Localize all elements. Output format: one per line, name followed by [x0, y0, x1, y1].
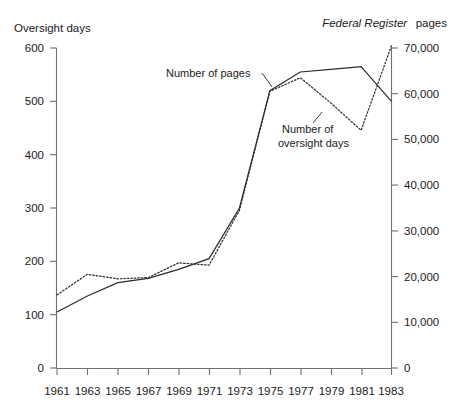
x-tick-label-1961: 1961 — [44, 385, 70, 397]
x-tick-label-1965: 1965 — [105, 385, 131, 397]
right-axis-ticks — [392, 48, 399, 368]
x-tick-label-1983: 1983 — [378, 385, 404, 397]
right-axis-title-plain: pages — [416, 17, 448, 29]
line-chart: Oversight days Federal Register pages 60… — [0, 0, 463, 414]
left-axis: 600 500 400 300 200 100 0 — [25, 42, 57, 374]
pages-annotation: Number of pages — [166, 67, 272, 87]
right-tick-label-50000: 50,000 — [404, 133, 439, 145]
right-tick-label-0: 0 — [404, 362, 410, 374]
left-axis-ticks — [50, 48, 57, 368]
right-axis-title-italic: Federal Register — [322, 17, 408, 29]
chart-container: Oversight days Federal Register pages 60… — [0, 0, 463, 414]
x-tick-label-1975: 1975 — [258, 385, 284, 397]
oversight-days-annotation-label-line1: Number of — [282, 123, 334, 135]
left-tick-label-200: 200 — [25, 255, 44, 267]
x-tick-label-1979: 1979 — [319, 385, 345, 397]
series-line-number-of-oversight-days — [57, 67, 392, 312]
left-axis-title: Oversight days — [14, 22, 91, 34]
left-tick-label-0: 0 — [38, 362, 44, 374]
right-tick-label-30000: 30,000 — [404, 225, 439, 237]
pages-annotation-label: Number of pages — [166, 67, 251, 79]
right-axis: 70,000 60,000 50,000 40,000 30,000 20,00… — [392, 42, 440, 374]
right-axis-tick-labels: 70,000 60,000 50,000 40,000 30,000 20,00… — [404, 42, 439, 374]
left-tick-label-600: 600 — [25, 42, 44, 54]
x-tick-label-1971: 1971 — [197, 385, 223, 397]
x-tick-label-1981: 1981 — [349, 385, 375, 397]
right-tick-label-20000: 20,000 — [404, 271, 439, 283]
right-tick-label-10000: 10,000 — [404, 316, 439, 328]
right-tick-label-60000: 60,000 — [404, 88, 439, 100]
left-tick-label-400: 400 — [25, 149, 44, 161]
series-line-number-of-pages — [57, 46, 392, 295]
x-axis-ticks — [57, 369, 392, 376]
right-tick-label-70000: 70,000 — [404, 42, 439, 54]
x-tick-label-1977: 1977 — [288, 385, 314, 397]
left-axis-tick-labels: 600 500 400 300 200 100 0 — [25, 42, 44, 374]
x-tick-label-1963: 1963 — [75, 385, 101, 397]
oversight-days-annotation-label-line2: oversight days — [278, 137, 349, 149]
x-tick-label-1967: 1967 — [136, 385, 162, 397]
x-axis: 1961 1963 1965 1967 1969 1971 1973 1975 … — [44, 369, 404, 398]
right-axis-title: Federal Register pages — [322, 13, 447, 30]
x-axis-tick-labels: 1961 1963 1965 1967 1969 1971 1973 1975 … — [44, 385, 404, 397]
x-tick-label-1973: 1973 — [227, 385, 253, 397]
left-tick-label-500: 500 — [25, 95, 44, 107]
right-tick-label-40000: 40,000 — [404, 179, 439, 191]
left-tick-label-300: 300 — [25, 202, 44, 214]
x-tick-label-1969: 1969 — [166, 385, 192, 397]
left-tick-label-100: 100 — [25, 309, 44, 321]
oversight-days-annotation: Number of oversight days — [278, 112, 349, 149]
